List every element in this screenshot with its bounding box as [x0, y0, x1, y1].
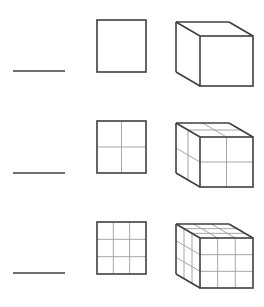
row-2 [13, 121, 253, 187]
cube-3x3x3-front-outline [200, 238, 253, 288]
cube-2x2x2 [176, 123, 253, 187]
cube-1x1x1-edge-bottom-left [176, 72, 200, 86]
cube-1x1x1-edge-top-left [176, 22, 200, 36]
dimension-progression-figure [0, 0, 264, 307]
cube-3x3x3 [176, 224, 253, 288]
square-1x1 [97, 20, 146, 72]
square-1x1-outline [97, 20, 146, 72]
cube-1x1x1-front-outline [200, 36, 253, 86]
cube-3x3x3-left-grid-h [176, 257, 200, 271]
row-1 [13, 20, 253, 86]
row-3 [13, 222, 253, 288]
cube-3x3x3-edge-bottom-left [176, 274, 200, 288]
cube-3x3x3-left-grid-h [176, 241, 200, 255]
square-2x2 [97, 121, 146, 173]
figure-canvas [0, 0, 264, 307]
square-3x3-outline [97, 222, 146, 274]
square-3x3 [97, 222, 146, 274]
cube-1x1x1-edge-top-right [229, 22, 253, 36]
cube-1x1x1 [176, 22, 253, 86]
